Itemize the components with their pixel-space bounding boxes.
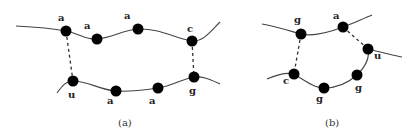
panel-caption-a: (a): [118, 117, 132, 128]
node-label: c: [283, 75, 289, 86]
nucleotide-node: [319, 83, 330, 94]
nucleotide-node: [92, 34, 103, 45]
nucleotide-node: [338, 22, 349, 33]
node-label: a: [149, 95, 156, 106]
node-label: a: [58, 12, 65, 23]
node-label: a: [84, 20, 91, 31]
node-label: g: [355, 82, 362, 93]
node-label: a: [124, 10, 131, 21]
node-label: g: [294, 14, 301, 25]
node-label: g: [189, 85, 196, 96]
nucleotide-node: [68, 76, 79, 87]
node-label: a: [333, 10, 340, 21]
nucleotide-node: [153, 83, 164, 94]
base-pair-link-g-c: [294, 34, 301, 74]
panel-a: a a a c u a a g (a): [16, 10, 220, 128]
nucleotide-node: [61, 26, 72, 37]
figure-canvas: a a a c u a a g (a) g a u g g c (b): [0, 0, 415, 137]
node-label: u: [68, 89, 75, 100]
nucleotide-node: [352, 70, 363, 81]
node-label: c: [187, 23, 193, 34]
strand-b-top: [262, 15, 372, 35]
panel-b: g a u g g c (b): [262, 10, 402, 128]
nucleotide-node: [363, 44, 374, 55]
node-label: u: [374, 50, 381, 61]
nucleotide-node: [133, 24, 144, 35]
nucleotide-node: [187, 36, 198, 47]
nucleotide-node: [296, 29, 307, 40]
node-label: g: [316, 93, 323, 104]
base-pair-link-a-u: [66, 31, 73, 81]
panel-caption-b: (b): [325, 117, 339, 128]
nucleotide-node: [289, 69, 300, 80]
node-label: a: [107, 95, 114, 106]
nucleotide-node: [189, 72, 200, 83]
